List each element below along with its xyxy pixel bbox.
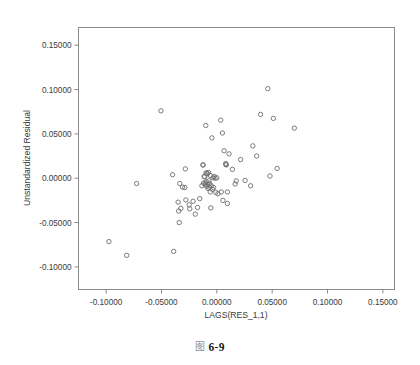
x-tick-label: -0.05000 xyxy=(145,298,178,307)
y-tick-label: -0.10000 xyxy=(39,263,72,272)
y-axis-title: Unstandardized Residual xyxy=(22,110,32,206)
y-tick-label: -0.05000 xyxy=(39,219,72,228)
x-tick-label: 0.15000 xyxy=(368,298,398,307)
x-axis-ticks xyxy=(106,290,383,294)
y-tick-label: 0.05000 xyxy=(42,130,72,139)
x-tick-label: -0.10000 xyxy=(90,298,123,307)
figure-caption-text: 6-9 xyxy=(209,341,225,353)
x-axis-title: LAGS(RES_1,1) xyxy=(204,310,267,320)
figure-container: -0.10000-0.050000.000000.050000.100000.1… xyxy=(0,0,420,365)
x-tick-label: 0.00000 xyxy=(202,298,232,307)
figure-caption-glyph: 图 xyxy=(195,338,205,353)
plot-frame xyxy=(79,28,395,290)
x-tick-label: 0.10000 xyxy=(313,298,343,307)
y-axis-tick-labels: 0.150000.100000.050000.00000-0.05000-0.1… xyxy=(39,41,72,272)
y-tick-label: 0.15000 xyxy=(42,41,72,50)
y-tick-label: 0.10000 xyxy=(42,86,72,95)
x-tick-label: 0.05000 xyxy=(257,298,287,307)
figure-caption: 图6-9 xyxy=(0,338,420,353)
y-axis-ticks xyxy=(75,45,79,267)
scatter-plot: -0.10000-0.050000.000000.050000.100000.1… xyxy=(0,0,420,338)
x-axis-tick-labels: -0.10000-0.050000.000000.050000.100000.1… xyxy=(90,298,398,307)
y-tick-label: 0.00000 xyxy=(42,174,72,183)
